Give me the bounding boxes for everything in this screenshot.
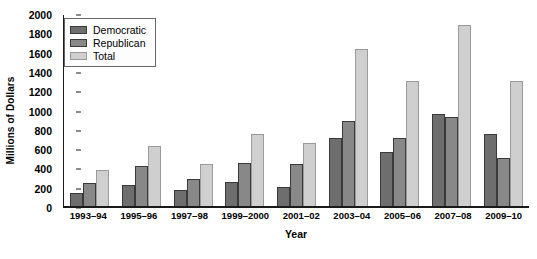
x-tick-label: 1995–96 [120,210,157,226]
y-tick-label: 0 [46,202,52,214]
legend-swatch-icon [70,39,87,47]
y-tick-label: 1800 [29,28,52,40]
bar-republican-2001-02[interactable] [290,164,303,206]
bar-republican-2009-10[interactable] [497,158,510,206]
bar-total-2005-06[interactable] [406,81,419,206]
bar-democratic-1993-94[interactable] [70,193,83,206]
legend-label: Democratic [93,24,146,36]
bar-group [225,15,264,206]
bar-total-2009-10[interactable] [510,81,523,206]
bar-total-2003-04[interactable] [355,49,368,206]
bar-democratic-2001-02[interactable] [277,187,290,206]
x-axis-title: Year [63,228,529,240]
x-axis-ticks: 1993–941995–961997–981999–20002001–02200… [63,210,529,226]
y-tick-label: 1400 [29,67,52,79]
bar-republican-1993-94[interactable] [83,183,96,206]
bar-democratic-1995-96[interactable] [122,185,135,206]
x-tick-label: 2005–06 [384,210,421,226]
bar-total-1995-96[interactable] [148,146,161,206]
bar-democratic-2007-08[interactable] [432,114,445,206]
x-tick-label: 1997–98 [171,210,208,226]
bar-total-1997-98[interactable] [200,164,213,206]
x-tick-label: 2007–08 [435,210,472,226]
y-tick-label: 200 [34,183,52,195]
bar-democratic-1997-98[interactable] [174,190,187,206]
bar-total-1999-2000[interactable] [251,134,264,206]
y-tick-label: 400 [34,163,52,175]
bar-group [380,15,419,206]
bar-republican-2003-04[interactable] [342,121,355,206]
bar-democratic-1999-2000[interactable] [225,182,238,206]
legend-swatch-icon [70,26,87,34]
bar-republican-1997-98[interactable] [187,179,200,206]
bar-total-2001-02[interactable] [303,143,316,206]
y-tick-label: 1200 [29,86,52,98]
bar-group [484,15,523,206]
x-tick-label: 1993–94 [70,210,107,226]
bar-democratic-2003-04[interactable] [329,138,342,206]
bar-republican-2005-06[interactable] [393,138,406,206]
bar-democratic-2005-06[interactable] [380,152,393,206]
bar-total-2007-08[interactable] [458,25,471,206]
bar-democratic-2009-10[interactable] [484,134,497,206]
y-tick-label: 1000 [29,106,52,118]
bar-republican-2007-08[interactable] [445,117,458,206]
y-tick-label: 1600 [29,48,52,60]
legend-item-total[interactable]: Total [70,49,146,62]
legend-swatch-icon [70,52,87,60]
y-axis-title-text: Millions of Dollars [5,76,16,164]
bar-republican-1995-96[interactable] [135,166,148,206]
legend-label: Republican [93,37,146,49]
bar-group [174,15,213,206]
bar-group [277,15,316,206]
bar-group [432,15,471,206]
x-tick-label: 2001–02 [283,210,320,226]
bar-republican-1999-2000[interactable] [238,163,251,206]
legend-item-republican[interactable]: Republican [70,36,146,49]
bar-total-1993-94[interactable] [96,170,109,206]
y-tick-label: 600 [34,144,52,156]
y-tick-label: 800 [34,125,52,137]
x-tick-label: 1999–2000 [222,210,270,226]
bar-chart: Millions of Dollars 02004006008001000120… [0,0,537,259]
bar-group [329,15,368,206]
y-axis-ticks: 0200400600800100012001400160018002000 [18,0,58,259]
chart-legend: DemocraticRepublicanTotal [64,18,156,67]
legend-label: Total [93,50,115,62]
y-axis-title: Millions of Dollars [2,50,18,190]
x-tick-label: 2003–04 [333,210,370,226]
y-tick-label: 2000 [29,9,52,21]
legend-item-democratic[interactable]: Democratic [70,23,146,36]
x-tick-label: 2009–10 [485,210,522,226]
